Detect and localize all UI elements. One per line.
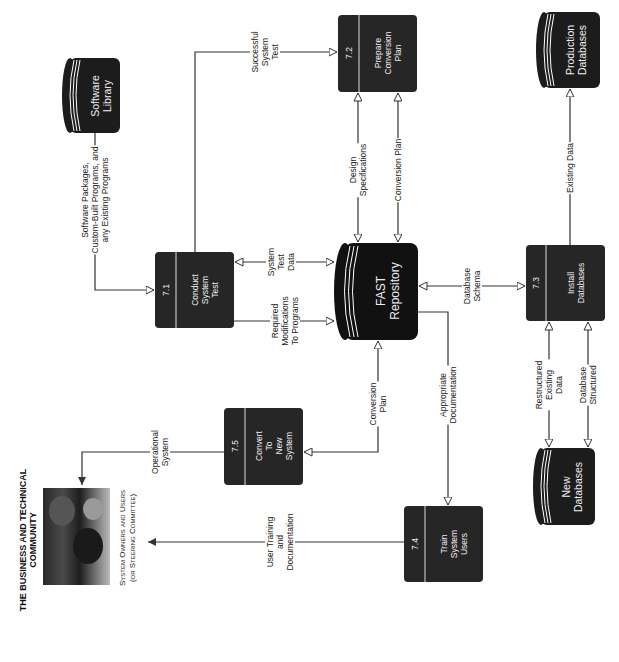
external-entity-subtitle: System Owners and Users (or Steering Com… [118, 490, 138, 586]
software-library-label: Software Library [89, 75, 113, 116]
flow-label-conversion-plan: Conversion Plan [393, 138, 403, 202]
flow-label-operational-system: Operational System [150, 429, 170, 475]
process-7-4-label: Train System Users [439, 530, 469, 558]
flow-label-system-test-data: System Test Data [266, 247, 296, 277]
flow-label-required-modifications: Required Modifications To Programs [270, 295, 300, 347]
flow-label-successful-system-test: Successful System Test [250, 30, 280, 73]
fast-repository-label: FAST Repository [374, 262, 402, 319]
flow-label-appropriate-documentation: Appropriate Documentation [438, 365, 458, 424]
process-7-1-id: 7.1 [161, 284, 171, 296]
flow-label-conversion-plan-7-5: Conversion Plan [368, 382, 388, 427]
process-7-2-id: 7.2 [344, 47, 354, 59]
process-7-5-label: Convert To New System [254, 431, 294, 461]
flow-label-database-schema: Database Schema [462, 267, 482, 305]
external-entity-title: THE BUSINESS AND TECHNICAL COMMUNITY [18, 469, 38, 612]
process-7-4-id: 7.4 [410, 538, 420, 550]
people-photo [43, 488, 110, 585]
flow-label-user-training: User Training and Documentation [265, 512, 295, 571]
process-7-5-id: 7.5 [230, 440, 240, 452]
process-7-1-label: Conduct System Test [190, 274, 220, 306]
flow-label-software-packages: Software Packages, Custom-Built Programs… [80, 146, 110, 255]
process-7-2-label: Prepare Conversion Plan [373, 32, 403, 75]
flow-successful-system-test [195, 52, 337, 252]
flow-label-database-structured: Database Structured [578, 364, 598, 405]
flow-label-design-specifications: Design Specifications [348, 143, 368, 197]
production-databases-label: Production Databases [564, 25, 588, 75]
flow-label-existing-data: Existing Data [565, 142, 575, 194]
flow-conversion-plan-7-5 [304, 341, 378, 452]
process-7-3-label: Install Databases [566, 263, 586, 304]
flow-label-restructured-existing-data: Restructured Existing Data [534, 360, 564, 411]
new-databases-label: New Databases [560, 462, 584, 512]
process-7-3-id: 7.3 [531, 277, 541, 289]
